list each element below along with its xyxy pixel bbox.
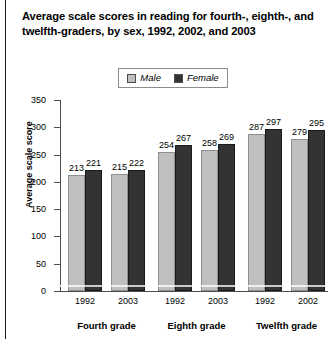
chart-legend: Male Female xyxy=(118,68,228,88)
bar-male xyxy=(111,174,128,291)
x-axis-year-label: 1992 xyxy=(155,296,195,306)
x-axis-year-label: 2002 xyxy=(288,296,328,306)
x-axis-line xyxy=(60,291,328,292)
y-axis-title: Average scale score xyxy=(25,105,34,225)
bar-female xyxy=(85,170,102,291)
bar-value-label: 267 xyxy=(172,134,196,143)
bar-value-label: 297 xyxy=(262,118,286,127)
bar-male xyxy=(248,134,265,291)
legend-swatch-male-icon xyxy=(127,74,136,83)
x-axis-year-label: 2003 xyxy=(198,296,238,306)
chart-figure: Average scale scores in reading for four… xyxy=(0,0,332,339)
bar-male xyxy=(68,175,85,291)
legend-entry-male: Male xyxy=(127,73,161,83)
bar-value-label: 221 xyxy=(82,159,106,168)
bar-female xyxy=(175,145,192,291)
bar-male xyxy=(291,139,308,291)
y-axis-tick-label: 100 xyxy=(0,232,46,241)
x-axis-year-label: 1992 xyxy=(245,296,285,306)
bar-female xyxy=(308,130,325,291)
bar-value-label: 222 xyxy=(125,159,149,168)
legend-label-male: Male xyxy=(140,73,161,83)
plot-area: 213221215222254267258269287297279295 xyxy=(60,100,328,291)
chart-title: Average scale scores in reading for four… xyxy=(22,9,322,38)
bar-female xyxy=(128,170,145,291)
y-axis-tick-label: 50 xyxy=(0,259,46,268)
bar-female xyxy=(218,144,235,291)
x-axis-year-label: 1992 xyxy=(65,296,105,306)
bar-male xyxy=(158,152,175,291)
x-axis-year-label: 2003 xyxy=(108,296,148,306)
x-axis-grade-group-label: Twelfth grade xyxy=(242,320,332,331)
legend-swatch-female-icon xyxy=(174,74,183,83)
bar-value-label: 269 xyxy=(215,133,239,142)
bar-female xyxy=(265,129,282,291)
legend-label-female: Female xyxy=(187,73,219,83)
y-axis-tick xyxy=(54,291,60,292)
x-axis-grade-group-label: Eighth grade xyxy=(152,320,242,331)
bar-male xyxy=(201,150,218,291)
y-axis-tick-label: 350 xyxy=(0,96,46,105)
bar-value-label: 295 xyxy=(305,119,329,128)
legend-entry-female: Female xyxy=(174,73,219,83)
x-axis-grade-group-label: Fourth grade xyxy=(62,320,152,331)
y-axis-tick-label: 0 xyxy=(0,287,46,296)
